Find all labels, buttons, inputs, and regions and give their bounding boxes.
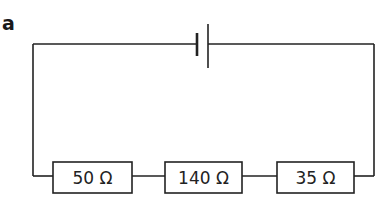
resistor-3-label: 35 Ω <box>295 168 335 188</box>
resistor-1: 50 Ω <box>53 162 132 193</box>
circuit-diagram: 50 Ω 140 Ω 35 Ω <box>0 0 385 199</box>
battery-icon <box>197 24 208 68</box>
resistor-2: 140 Ω <box>165 162 242 193</box>
resistor-1-label: 50 Ω <box>72 168 112 188</box>
resistor-3: 35 Ω <box>277 162 354 193</box>
resistor-2-label: 140 Ω <box>178 168 229 188</box>
